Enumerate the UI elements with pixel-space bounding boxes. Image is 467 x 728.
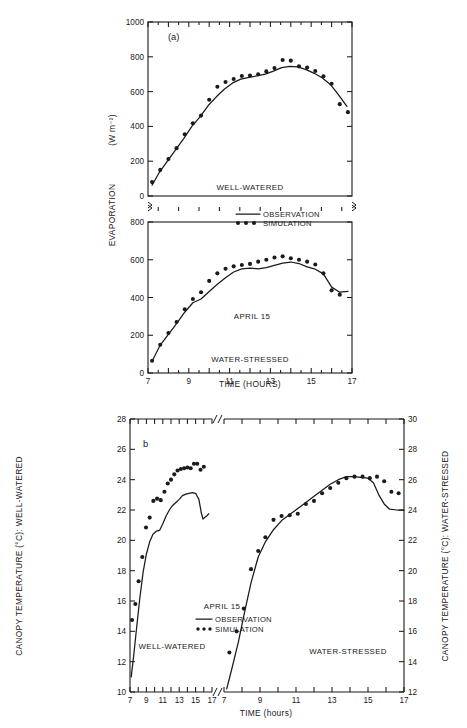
panel-b-well-watered-simulation-point <box>189 466 193 470</box>
panel-a-water-stressed-simulation-point <box>207 279 211 283</box>
panel-a-well-watered-simulation-point <box>305 66 309 70</box>
panel-a-water-stressed-simulation-point <box>289 256 293 260</box>
panel-b-water-stressed-simulation-point <box>361 475 365 479</box>
panel-a-legend-observation-label: OBSERVATION <box>263 210 320 219</box>
panel-a-annotation-date: APRIL 15 <box>234 312 271 321</box>
panel-b-water-stressed-simulation-point <box>352 475 356 479</box>
panel-b-right-ytick-label: 22 <box>408 536 418 545</box>
panel-b-water-stressed-simulation-point <box>336 481 340 485</box>
panel-b-water-stressed-simulation-point <box>249 567 253 571</box>
panel-a-water-stressed-simulation-point <box>305 260 309 264</box>
panel-b-water-stressed-simulation-point <box>375 475 379 479</box>
panel-a-water-stressed-simulation-point <box>256 260 260 264</box>
panel-a-water-stressed-simulation-point <box>338 293 342 297</box>
panel-a-water-stressed-simulation-point <box>321 271 325 275</box>
panel-a-well-watered-simulation-point <box>199 114 203 118</box>
panel-b-left-ytick-label: 26 <box>117 445 127 454</box>
panel-a-well-watered-simulation-point <box>256 72 260 76</box>
panel-b-right-xtick-label: 9 <box>258 696 263 705</box>
panel-b-well-watered-simulation-point <box>198 468 202 472</box>
panel-a-well-watered-simulation-point <box>158 168 162 172</box>
panel-a-well-watered-observation-line <box>152 66 347 185</box>
panel-a-well-watered-simulation-point <box>330 82 334 86</box>
panel-a-well-watered-simulation-point <box>175 146 179 150</box>
panel-a-xaxis-title: TIME (HOURS) <box>219 379 281 389</box>
panel-a-water-stressed-simulation-point <box>191 297 195 301</box>
panel-b-legend-simulation-swatch <box>196 627 199 630</box>
panel-a-well-watered-simulation-point <box>264 69 268 73</box>
panel-b-water-stressed-simulation-point <box>344 476 348 480</box>
panel-b-water-stressed-simulation-point <box>304 502 308 506</box>
panel-a-well-watered-simulation-point <box>338 102 342 106</box>
panel-a-well-watered-simulation-point <box>183 132 187 136</box>
panel-a-annotation-well-watered: WELL-WATERED <box>217 183 284 192</box>
panel-b-legend-simulation-swatch <box>208 627 211 630</box>
panel-b-left-yaxis-title: CANOPY TEMPERATURE (°C): WELL-WATERED <box>14 456 24 656</box>
panel-b-annotation-well-watered: WELL-WATERED <box>139 642 206 651</box>
panel-b-right-xtick-label: 17 <box>399 696 409 705</box>
panel-b-well-watered-simulation-point <box>148 516 152 520</box>
panel-b-left-xtick-label: 17 <box>207 696 217 705</box>
panel-a-well-watered-simulation-point <box>223 80 227 84</box>
panel-b-well-watered-simulation-point <box>144 525 148 529</box>
panel-a-well-watered-simulation-point <box>232 77 236 81</box>
panel-a-well-watered-simulation-point <box>150 180 154 184</box>
panel-b-left-xtick-label: 15 <box>191 696 201 705</box>
panel-a-water-stressed-simulation-point <box>264 258 268 262</box>
panel-a-top-ytick-label: 800 <box>130 53 144 62</box>
panel-a-well-watered-simulation-point <box>240 74 244 78</box>
panel-a-water-stressed-simulation-point <box>158 343 162 347</box>
panel-b-right-yaxis-title: CANOPY TEMPERATURE (°C): WATER-STRESSED <box>440 451 450 662</box>
axis-break-mark <box>352 202 356 211</box>
panel-b-right-ytick-label: 26 <box>408 476 418 485</box>
panel-b-water-stressed-simulation-point <box>242 607 246 611</box>
panel-b-well-watered-simulation-point <box>151 499 155 503</box>
panel-b-left-xtick-label: 13 <box>175 696 185 705</box>
panel-a-well-watered-simulation-point <box>166 157 170 161</box>
panel-b-well-watered-simulation-point <box>195 462 199 466</box>
panel-a-water-stressed-simulation-point <box>223 267 227 271</box>
panel-b-well-watered-simulation-point <box>140 555 144 559</box>
panel-a-xtick-label: 7 <box>146 377 151 386</box>
panel-a-top-ytick-label: 1000 <box>126 18 145 27</box>
panel-b-xaxis-title: TIME (hours) <box>240 708 292 718</box>
axis-break-mark <box>148 202 152 211</box>
panel-a-top-ytick-label: 0 <box>139 192 144 201</box>
panel-b-water-stressed-simulation-point <box>328 486 332 490</box>
panel-b-right-ytick-label: 30 <box>408 415 418 424</box>
panel-b-left-ytick-label: 28 <box>117 415 127 424</box>
panel-b-water-stressed-simulation-point <box>227 651 231 655</box>
panel-a-top-ytick-label: 200 <box>130 157 144 166</box>
panel-a-xtick-label: 15 <box>307 377 317 386</box>
panel-b-water-stressed-simulation-point <box>288 513 292 517</box>
panel-a-well-watered-simulation-point <box>248 74 252 78</box>
panel-a-water-stressed-simulation-point <box>232 264 236 268</box>
panel-b-water-stressed-simulation-point <box>296 512 300 516</box>
panel-a-well-watered-simulation-point <box>313 69 317 73</box>
panel-a-water-stressed-simulation-point <box>166 331 170 335</box>
panel-a-bottom-plot-frame <box>148 222 352 373</box>
panel-b-well-watered-simulation-point <box>155 497 159 501</box>
panel-b-well-watered-simulation-point <box>166 481 170 485</box>
panel-b-left-ytick-label: 16 <box>117 597 127 606</box>
panel-b-well-watered-simulation-point <box>130 618 134 622</box>
panel-b-well-watered-simulation-point <box>137 579 141 583</box>
panel-b-right-ytick-label: 14 <box>408 658 418 667</box>
panel-b-water-stressed-simulation-point <box>368 476 372 480</box>
panel-b-well-watered-simulation-point <box>202 465 206 469</box>
panel-b-left-xtick-label: 7 <box>128 696 133 705</box>
panel-b-legend-simulation-label: SIMULATION <box>215 625 264 634</box>
panel-a-bottom-ytick-label: 0 <box>139 369 144 378</box>
panel-b-water-stressed-simulation-point <box>280 514 284 518</box>
panel-b-legend-observation-label: OBSERVATION <box>215 615 272 624</box>
panel-a-legend-simulation-swatch <box>236 221 240 225</box>
panel-a-bottom-ytick-label: 800 <box>130 218 144 227</box>
panel-b-annotation-water-stressed: WATER-STRESSED <box>309 647 387 656</box>
panel-b-right-ytick-label: 20 <box>408 567 418 576</box>
panel-b-water-stressed-simulation-point <box>389 490 393 494</box>
panel-a-well-watered-simulation-point <box>346 110 350 114</box>
panel-b-right-ytick-label: 18 <box>408 597 418 606</box>
panel-a-water-stressed-simulation-point <box>313 262 317 266</box>
axis-break-mark <box>213 415 222 423</box>
panel-a-label: (a) <box>168 31 179 42</box>
